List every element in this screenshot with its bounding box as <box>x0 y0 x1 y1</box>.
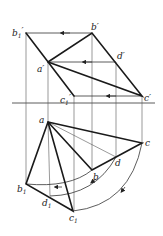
geometry-diagram: b1′ b′ a′ d′ c1′ c′ a c d b b1 d1 c1 <box>0 0 163 236</box>
svg-text:b′: b′ <box>91 22 99 32</box>
svg-text:d′: d′ <box>117 51 125 61</box>
svg-text:c1: c1 <box>69 213 78 224</box>
svg-text:d1: d1 <box>42 198 52 209</box>
labels: b1′ b′ a′ d′ c1′ c′ a c d b b1 d1 c1 <box>12 22 151 224</box>
svg-text:b1′: b1′ <box>12 26 24 39</box>
svg-text:c′: c′ <box>144 93 151 103</box>
svg-text:d: d <box>115 158 121 168</box>
svg-text:b1: b1 <box>17 184 27 195</box>
svg-text:b: b <box>93 172 99 182</box>
svg-text:c: c <box>145 138 150 148</box>
svg-text:a′: a′ <box>37 64 44 74</box>
svg-text:a: a <box>39 115 44 125</box>
svg-text:c1′: c1′ <box>60 93 71 106</box>
